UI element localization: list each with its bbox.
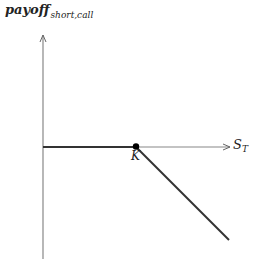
y-axis-label-main: payoff <box>5 2 50 17</box>
payoff-loss-segment <box>136 147 229 240</box>
x-axis-label-subscript: T <box>242 144 248 154</box>
x-axis-label: ST <box>233 137 248 152</box>
payoff-diagram: payoffshort,call ST K <box>0 0 259 272</box>
strike-label: K <box>131 149 140 163</box>
x-axis-label-main: S <box>233 137 242 152</box>
y-axis-label-subscript: short,call <box>51 10 94 20</box>
diagram-svg <box>0 0 259 272</box>
y-axis-label: payoffshort,call <box>5 2 93 17</box>
